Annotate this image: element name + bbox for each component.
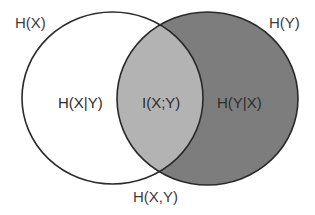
label-h-x: H(X) xyxy=(15,15,46,30)
label-h-y: H(Y) xyxy=(269,15,300,30)
label-joint-entropy: H(X,Y) xyxy=(133,189,178,204)
label-mutual-information: I(X;Y) xyxy=(142,95,180,110)
label-h-x-given-y: H(X|Y) xyxy=(58,95,103,110)
label-h-y-given-x: H(Y|X) xyxy=(217,95,262,110)
